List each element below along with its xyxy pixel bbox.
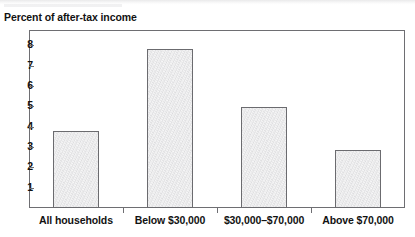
bar	[53, 131, 99, 208]
bar	[241, 107, 287, 208]
x-axis-label: All households	[29, 214, 123, 226]
chart-axis-title: Percent of after-tax income	[4, 11, 137, 23]
bar	[335, 150, 381, 208]
x-tick-mark	[123, 208, 124, 213]
x-axis-label: Above $70,000	[311, 214, 405, 226]
y-tick-mark	[29, 147, 34, 148]
y-tick-mark	[29, 188, 34, 189]
x-axis-label: Below $30,000	[123, 214, 217, 226]
y-tick-mark	[29, 45, 34, 46]
y-tick-mark	[29, 86, 34, 87]
bar	[147, 49, 193, 208]
x-tick-mark	[311, 208, 312, 213]
scan-artifact	[0, 0, 415, 5]
x-tick-mark	[217, 208, 218, 213]
y-tick-mark	[29, 167, 34, 168]
y-tick-mark	[29, 106, 34, 107]
bar-chart-figure: Percent of after-tax income 12345678 All…	[0, 0, 415, 237]
y-tick-mark	[29, 127, 34, 128]
y-tick-mark	[29, 66, 34, 67]
x-axis-label: $30,000–$70,000	[217, 214, 311, 226]
